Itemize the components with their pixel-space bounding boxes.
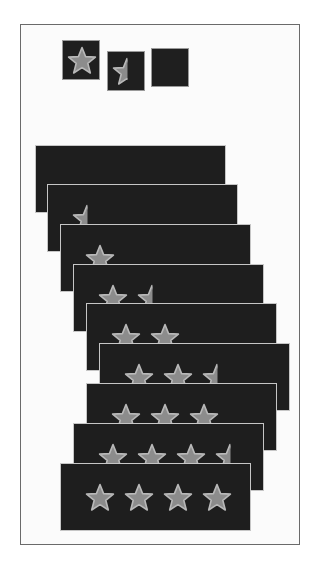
star-icon <box>163 483 193 512</box>
star-icon <box>67 46 97 75</box>
empty-star-tile <box>151 48 189 87</box>
half-star-icon <box>112 57 142 86</box>
full-star-tile <box>62 40 100 80</box>
star-icon <box>85 483 115 512</box>
half-star-tile <box>107 51 145 91</box>
rating-card-4 <box>60 463 251 531</box>
star-icon <box>124 483 154 512</box>
star-icon <box>202 483 232 512</box>
